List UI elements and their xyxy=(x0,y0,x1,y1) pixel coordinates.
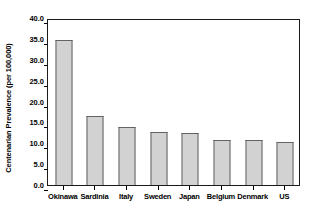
bar-chart: Centenarian Prevalence (per 100,000) 0.0… xyxy=(0,0,312,216)
y-axis-tick-mark xyxy=(44,190,48,191)
y-axis-tick-labels: 0.05.010.015.020.025.030.035.040.0 xyxy=(18,13,44,187)
x-axis-category-label: Denmark xyxy=(237,192,268,201)
y-axis-tick-label: 30.0 xyxy=(18,57,44,65)
bar-slot xyxy=(175,20,207,185)
y-axis-tick-label: 40.0 xyxy=(18,15,44,23)
bar-slot xyxy=(80,20,112,185)
bars-layer xyxy=(48,20,299,185)
y-axis-tick-label: 20.0 xyxy=(18,99,44,107)
bar-slot xyxy=(111,20,143,185)
bar xyxy=(150,132,167,185)
x-axis-category-label: Japan xyxy=(179,192,200,201)
x-axis-category-label: Sardinia xyxy=(80,192,108,201)
bar xyxy=(55,40,72,185)
x-axis-category-label: Sweden xyxy=(144,192,171,201)
bar-slot xyxy=(143,20,175,185)
bar xyxy=(245,140,262,185)
bar xyxy=(213,140,230,185)
x-axis-tick-mark xyxy=(284,186,285,190)
bar-slot xyxy=(48,20,80,185)
bar xyxy=(277,142,294,185)
y-axis-tick-label: 15.0 xyxy=(18,119,44,127)
bar xyxy=(119,127,136,185)
bar xyxy=(87,116,104,185)
x-axis-tick-marks xyxy=(47,186,300,190)
x-axis-tick-mark xyxy=(94,186,95,190)
x-axis-tick-mark xyxy=(126,186,127,190)
x-axis-tick-mark xyxy=(221,186,222,190)
x-axis-tick-mark xyxy=(158,186,159,190)
y-axis-tick-label: 0.0 xyxy=(18,182,44,190)
y-axis-tick-label: 35.0 xyxy=(18,36,44,44)
x-axis-category-label: Okinawa xyxy=(48,192,77,201)
x-axis-category-label: Italy xyxy=(119,192,133,201)
x-axis-category-label: US xyxy=(279,192,289,201)
bar-slot xyxy=(206,20,238,185)
x-axis-tick-mark xyxy=(63,186,64,190)
x-axis-tick-mark xyxy=(189,186,190,190)
y-axis-tick-label: 10.0 xyxy=(18,140,44,148)
bar-slot xyxy=(269,20,301,185)
plot-area xyxy=(47,19,300,186)
bar-slot xyxy=(238,20,270,185)
bar xyxy=(182,133,199,185)
y-axis-title: Centenarian Prevalence (per 100,000) xyxy=(0,0,16,216)
y-axis-tick-label: 5.0 xyxy=(18,161,44,169)
y-axis-tick-label: 25.0 xyxy=(18,78,44,86)
x-axis-tick-mark xyxy=(253,186,254,190)
x-axis-category-labels: OkinawaSardiniaItalySwedenJapanBelgiumDe… xyxy=(47,192,300,206)
x-axis-category-label: Belgium xyxy=(207,192,235,201)
